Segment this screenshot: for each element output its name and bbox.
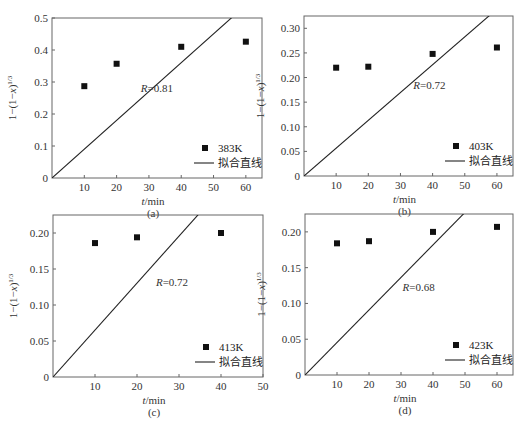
panel-a: 10203040506000.10.20.30.40.51−(1−x)1/3t/… bbox=[6, 0, 262, 220]
y-tick-label: 0.5 bbox=[34, 12, 48, 24]
legend-marker-icon bbox=[453, 342, 459, 348]
x-tick-label: 20 bbox=[132, 380, 144, 392]
r-annotation: R=0.81 bbox=[140, 82, 173, 94]
y-axis-label: 1−(1−x)1/3 bbox=[254, 73, 267, 118]
y-tick-label: 0.1 bbox=[34, 140, 48, 152]
r-annotation: R=0.72 bbox=[412, 79, 445, 91]
x-axis-label: t/min bbox=[141, 195, 165, 207]
data-point bbox=[430, 229, 436, 235]
legend-entry-fit: 拟合直线 bbox=[218, 156, 262, 169]
data-point bbox=[114, 61, 120, 67]
legend-entry-fit: 拟合直线 bbox=[469, 154, 513, 167]
x-tick-label: 60 bbox=[240, 181, 252, 193]
data-point bbox=[243, 39, 249, 45]
x-tick-label: 30 bbox=[395, 179, 407, 191]
y-tick-label: 0.20 bbox=[282, 226, 302, 238]
x-tick-label: 40 bbox=[428, 378, 440, 390]
legend-entry-series: 413K bbox=[219, 341, 244, 353]
x-tick-label: 50 bbox=[208, 181, 220, 193]
axes-frame bbox=[52, 18, 262, 178]
r-annotation: R=0.68 bbox=[402, 281, 436, 293]
x-tick-label: 50 bbox=[460, 378, 472, 390]
y-tick-label: 0.30 bbox=[281, 22, 301, 34]
x-tick-label: 30 bbox=[396, 378, 408, 390]
x-tick-label: 10 bbox=[79, 181, 91, 193]
y-tick-label: 0.10 bbox=[281, 121, 301, 133]
data-point bbox=[333, 65, 339, 71]
x-tick-label: 40 bbox=[176, 181, 188, 193]
x-tick-label: 40 bbox=[216, 380, 228, 392]
figure-canvas: 10203040506000.10.20.30.40.51−(1−x)1/3t/… bbox=[0, 0, 531, 423]
x-tick-label: 10 bbox=[331, 179, 343, 191]
x-tick-label: 10 bbox=[90, 380, 102, 392]
data-point bbox=[92, 240, 98, 246]
y-tick-label: 0.10 bbox=[30, 299, 50, 311]
legend-entry-series: 423K bbox=[469, 339, 494, 351]
data-point bbox=[81, 83, 87, 89]
data-point bbox=[494, 224, 500, 230]
x-tick-label: 40 bbox=[427, 179, 439, 191]
y-tick-label: 0.20 bbox=[281, 72, 301, 84]
panel-caption: (b) bbox=[398, 205, 411, 218]
data-point bbox=[365, 64, 371, 70]
y-tick-label: 0.05 bbox=[282, 333, 302, 345]
x-tick-label: 50 bbox=[258, 380, 270, 392]
y-tick-label: 0.20 bbox=[30, 227, 50, 239]
x-tick-label: 20 bbox=[111, 181, 123, 193]
legend-entry-series: 403K bbox=[469, 140, 494, 152]
legend-marker-icon bbox=[453, 143, 459, 149]
panel-caption: (a) bbox=[147, 207, 160, 220]
axes-frame bbox=[304, 16, 513, 176]
x-tick-label: 60 bbox=[492, 378, 504, 390]
y-tick-label: 0.15 bbox=[282, 262, 302, 274]
data-point bbox=[494, 45, 500, 51]
y-tick-label: 0 bbox=[296, 369, 302, 381]
y-tick-label: 0.3 bbox=[34, 76, 48, 88]
panel-b: 10203040506000.050.100.150.200.250.301−(… bbox=[254, 0, 513, 218]
x-tick-label: 60 bbox=[491, 179, 503, 191]
data-point bbox=[430, 51, 436, 57]
x-tick-label: 30 bbox=[174, 380, 186, 392]
x-tick-label: 20 bbox=[364, 378, 376, 390]
y-tick-label: 0.25 bbox=[281, 47, 301, 59]
y-tick-label: 0.4 bbox=[34, 44, 48, 56]
r-annotation: R=0.72 bbox=[155, 276, 188, 288]
x-axis-label: t/min bbox=[393, 193, 417, 205]
panel-caption: (c) bbox=[148, 406, 161, 419]
x-tick-label: 20 bbox=[363, 179, 375, 191]
y-tick-label: 0.10 bbox=[282, 297, 302, 309]
x-tick-label: 50 bbox=[459, 179, 471, 191]
x-tick-label: 10 bbox=[332, 378, 344, 390]
legend-entry-fit: 拟合直线 bbox=[469, 353, 513, 366]
x-tick-label: 30 bbox=[143, 181, 155, 193]
data-point bbox=[334, 240, 340, 246]
y-tick-label: 0 bbox=[295, 170, 301, 182]
y-axis-label: 1−(1−x)1/3 bbox=[255, 272, 268, 317]
data-point bbox=[178, 44, 184, 50]
data-point bbox=[218, 230, 224, 236]
y-axis-label: 1−(1−x)1/3 bbox=[6, 75, 19, 120]
data-point bbox=[134, 234, 140, 240]
legend-entry-fit: 拟合直线 bbox=[219, 355, 263, 368]
y-tick-label: 0.05 bbox=[30, 335, 50, 347]
legend-marker-icon bbox=[203, 344, 209, 350]
y-tick-label: 0.2 bbox=[34, 108, 48, 120]
y-tick-label: 0.15 bbox=[30, 263, 50, 275]
data-point bbox=[366, 238, 372, 244]
legend-entry-series: 383K bbox=[218, 142, 243, 154]
legend-marker-icon bbox=[202, 145, 208, 151]
y-axis-label: 1−(1−x)1/3 bbox=[7, 273, 20, 318]
y-tick-label: 0 bbox=[43, 172, 49, 184]
panel-d: 10203040506000.050.100.150.201−(1−x)1/3t… bbox=[255, 164, 513, 417]
y-tick-label: 0.05 bbox=[281, 145, 301, 157]
panel-caption: (d) bbox=[399, 404, 412, 417]
x-axis-label: t/min bbox=[393, 392, 417, 404]
x-axis-label: t/min bbox=[142, 394, 166, 406]
y-tick-label: 0.15 bbox=[281, 96, 301, 108]
y-tick-label: 0 bbox=[44, 371, 50, 383]
